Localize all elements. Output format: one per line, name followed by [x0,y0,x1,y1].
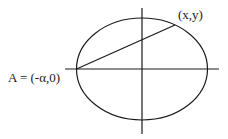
chord-line [77,25,176,69]
label-point-a: A = (-α,0) [8,70,60,85]
label-point-xy: (x,y) [178,7,203,22]
ellipse-diagram: A = (-α,0) (x,y) [0,0,228,139]
